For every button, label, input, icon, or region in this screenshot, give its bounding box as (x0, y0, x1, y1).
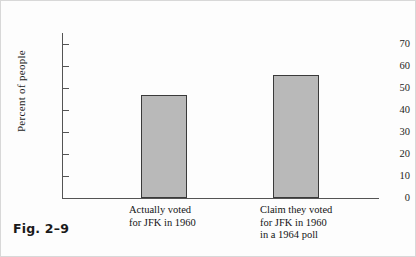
category-label-line: in a 1964 poll (260, 229, 332, 242)
bar (141, 95, 187, 198)
y-tick-mark (63, 198, 69, 199)
y-tick-label: 0 (359, 193, 416, 204)
y-tick-label: 50 (359, 83, 416, 94)
y-axis-title: Percent of people (15, 31, 27, 151)
bar (273, 75, 319, 198)
y-tick-mark (63, 132, 69, 133)
category-label-line: Actually voted (129, 204, 196, 217)
category-label: Actually votedfor JFK in 1960 (129, 204, 196, 229)
y-tick-mark (63, 44, 69, 45)
category-label-line: for JFK in 1960 (129, 217, 196, 230)
y-tick-label: 30 (359, 127, 416, 138)
category-label: Claim they votedfor JFK in 1960in a 1964… (260, 204, 332, 242)
y-tick-mark (63, 88, 69, 89)
y-tick-label: 70 (359, 39, 416, 50)
category-label-line: Claim they voted (260, 204, 332, 217)
y-tick-mark (63, 66, 69, 67)
bar-chart-plot: Percent of people 010203040506070 Actual… (1, 1, 416, 257)
y-axis-line (62, 33, 63, 199)
y-tick-label: 40 (359, 105, 416, 116)
y-tick-mark (63, 154, 69, 155)
y-tick-label: 10 (359, 171, 416, 182)
figure-panel: Percent of people 010203040506070 Actual… (0, 0, 416, 257)
x-axis-line (62, 198, 379, 199)
figure-caption: Fig. 2–9 (13, 221, 69, 236)
y-tick-label: 20 (359, 149, 416, 160)
category-label-line: for JFK in 1960 (260, 217, 332, 230)
y-tick-mark (63, 176, 69, 177)
y-tick-label: 60 (359, 61, 416, 72)
y-tick-mark (63, 110, 69, 111)
